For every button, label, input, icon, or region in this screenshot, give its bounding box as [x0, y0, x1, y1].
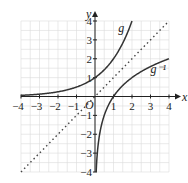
origin-label: O	[85, 98, 94, 112]
label-g: g	[118, 21, 124, 35]
x-tick-label: 1	[111, 100, 117, 112]
y-tick-label: 2	[87, 53, 93, 65]
x-tick-label: −2	[49, 100, 61, 112]
label-g-inverse: g⁻¹	[151, 62, 167, 76]
y-tick-label: −3	[80, 147, 92, 159]
x-tick-label: 3	[148, 100, 154, 112]
graph: −4−3−2−112344321−1−2−3−4xyOgg⁻¹	[0, 0, 188, 183]
y-tick-label: 3	[87, 34, 93, 46]
y-axis-arrow-icon	[92, 11, 98, 17]
x-axis-label: x	[181, 90, 188, 104]
x-tick-label: −3	[31, 100, 43, 112]
y-tick-label: −2	[80, 128, 92, 140]
y-tick-label: −4	[80, 166, 92, 178]
x-tick-label: −4	[12, 100, 24, 112]
x-tick-label: 2	[129, 100, 135, 112]
x-tick-label: −1	[68, 100, 80, 112]
x-axis-arrow-icon	[175, 94, 181, 100]
y-axis-label: y	[85, 7, 92, 21]
x-tick-label: 4	[166, 100, 172, 112]
